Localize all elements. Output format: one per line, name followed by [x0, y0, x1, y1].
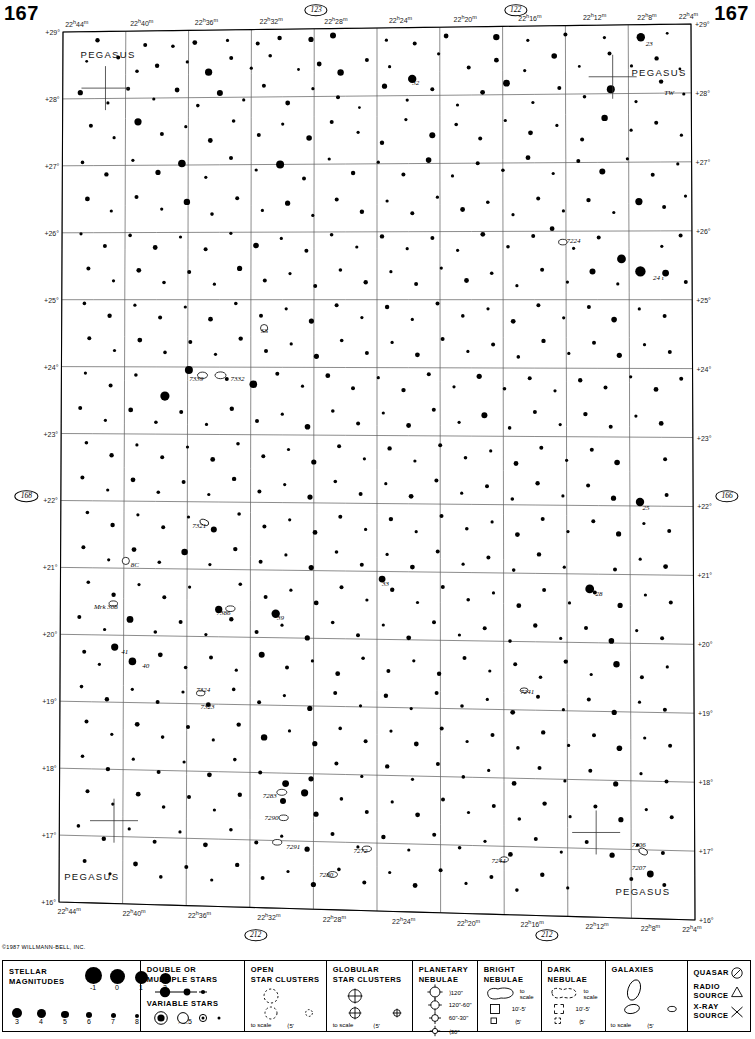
- adjacent-chart-badge[interactable]: 166: [715, 490, 738, 502]
- ra-label-top: 22h20m: [454, 14, 477, 23]
- ra-label-bottom: 22h32m: [257, 912, 280, 921]
- magnitude-sample: 5: [53, 999, 77, 1025]
- dec-label-left: +24°: [44, 363, 59, 370]
- legend-quasar-label: QUASAR: [694, 968, 730, 978]
- legend-title-line1: DARK: [548, 965, 572, 974]
- legend-xray-line2: SOURCE: [694, 1011, 729, 1020]
- constellation-name: PEGASUS: [631, 67, 686, 78]
- legend-title-line2: NEBULAE: [419, 975, 459, 984]
- object-label: 7323: [200, 703, 214, 711]
- ra-label-bottom: 22h4m: [682, 924, 701, 933]
- legend-title-line1: OPEN: [251, 965, 274, 974]
- object-label: SS: [261, 327, 268, 335]
- constellation-name: PEGASUS: [615, 886, 670, 897]
- object-label: 7224: [567, 237, 581, 245]
- dec-label-left: +23°: [43, 430, 58, 437]
- ra-label-top: 22h24m: [389, 15, 412, 24]
- magnitude-sample: 6: [77, 999, 101, 1025]
- planetary-nebula-icon: [427, 1012, 443, 1024]
- ra-label-top: 22h40m: [130, 18, 153, 27]
- object-label: 7290: [265, 814, 279, 822]
- adjacent-chart-badge[interactable]: 168: [15, 490, 38, 502]
- object-label: 28: [595, 590, 602, 598]
- object-label: 33: [382, 580, 389, 588]
- ra-label-top: 22h44m: [65, 19, 88, 28]
- magnitude-label: 5: [53, 1018, 77, 1025]
- legend-title-line2: STAR CLUSTERS: [251, 975, 320, 984]
- adjacent-chart-badge[interactable]: 122: [504, 5, 527, 17]
- dark-nebula-shape-icon: [548, 986, 580, 1001]
- magnitude-dot: [37, 1009, 46, 1018]
- object-label: 7339: [189, 375, 203, 383]
- dec-label-left: +16°: [41, 899, 56, 906]
- legend-open-small: ⟨5': [287, 1022, 293, 1029]
- adjacent-chart-badge[interactable]: 212: [535, 930, 558, 942]
- dec-label-left: +25°: [44, 296, 59, 303]
- magnitude-dot: [85, 967, 102, 984]
- adjacent-chart-badge[interactable]: 212: [244, 930, 267, 942]
- variable-star-icon: [151, 1011, 243, 1025]
- ra-label-bottom: 22h16m: [521, 919, 544, 928]
- star-chart-canvas[interactable]: [57, 22, 697, 924]
- legend-title-line1: GLOBULAR: [333, 965, 380, 974]
- magnitude-label: 6: [77, 1018, 101, 1025]
- magnitude-dot: [110, 969, 125, 984]
- dark-nebula-small-icon: [553, 1016, 567, 1026]
- legend-galaxy-to-scale: to scale: [611, 1022, 632, 1029]
- legend-open-to-scale: to scale: [251, 1022, 272, 1029]
- legend-galaxy-small: ⟨5': [647, 1022, 653, 1029]
- legend-title-line2: NEBULAE: [484, 975, 524, 984]
- magnitude-label: 0: [105, 984, 129, 991]
- magnitude-sample: 7: [101, 999, 125, 1025]
- object-label: 40: [142, 662, 149, 670]
- object-label: 25: [643, 504, 650, 512]
- legend-bright-mid: 10'-5': [512, 1006, 526, 1012]
- dec-label-right: +19°: [698, 710, 713, 717]
- legend-double-stars: DOUBLE OR MULTIPLE STARS VARIABLE STARS: [141, 961, 245, 1031]
- magnitude-label: -1: [81, 984, 105, 991]
- constellation-name: PEGASUS: [81, 49, 136, 60]
- radio-source-icon: [729, 985, 745, 999]
- ra-label-top: 22h28m: [324, 16, 347, 25]
- galaxy-icon: [616, 977, 688, 1017]
- object-label: 7283: [263, 792, 277, 800]
- magnitude-dot: [61, 1011, 69, 1019]
- legend-dark-small: ⟨5': [579, 1018, 585, 1025]
- object-label: 7332: [231, 375, 245, 383]
- magnitude-label: 4: [29, 1018, 53, 1025]
- legend-galaxies: GALAXIES to scale ⟨5': [606, 961, 688, 1031]
- legend-bright-to-scale: to scale: [520, 988, 536, 1000]
- object-label: Mrk 308: [94, 603, 118, 611]
- object-label: 7386: [216, 609, 230, 617]
- dec-label-right: +23°: [697, 434, 712, 441]
- ra-label-top: 22h32m: [260, 16, 283, 25]
- ra-label-bottom: 22h12m: [585, 921, 608, 930]
- dec-label-left: +29°: [45, 29, 60, 36]
- page-number-right: 167: [714, 2, 749, 25]
- star-chart[interactable]: 22h44m22h40m22h36m22h32m22h28m22h24m22h2…: [57, 22, 697, 924]
- legend-misc-sources: QUASAR RADIO SOURCE X-RAY SOURCE: [688, 961, 751, 1031]
- object-label: 7244: [491, 857, 505, 865]
- dec-label-right: +25°: [696, 296, 711, 303]
- bright-nebula-shape-icon: [484, 986, 516, 1001]
- dec-label-right: +26°: [696, 227, 711, 234]
- planetary-nebula-sample: 60"-30": [427, 1012, 472, 1024]
- ra-label-bottom: 22h44m: [58, 906, 81, 915]
- object-label: TW: [664, 89, 674, 97]
- legend-globular-clusters: GLOBULAR STAR CLUSTERS to scale ⟨5': [327, 961, 413, 1031]
- legend-title-line1: STELLAR: [9, 967, 47, 976]
- dec-label-left: +22°: [43, 497, 58, 504]
- legend-bright-small: ⟨5': [515, 1018, 521, 1025]
- object-label: 7280: [319, 871, 333, 879]
- ra-label-top: 22h8m: [637, 12, 656, 21]
- legend-title-line1: BRIGHT: [484, 965, 516, 974]
- dark-nebula-medium-icon: [553, 1003, 567, 1015]
- adjacent-chart-badge[interactable]: 123: [305, 5, 328, 17]
- bright-nebula-small-icon: [489, 1016, 503, 1026]
- legend-globular-to-scale: to scale: [333, 1022, 354, 1029]
- ra-label-top: 22h4m: [679, 11, 698, 20]
- atlas-page: 167 167 22h44m22h40m22h36m22h32m22h28m22…: [0, 0, 755, 1039]
- dec-label-right: +20°: [698, 641, 713, 648]
- dec-label-right: +16°: [699, 917, 714, 924]
- planetary-nebula-icon: [427, 1025, 443, 1037]
